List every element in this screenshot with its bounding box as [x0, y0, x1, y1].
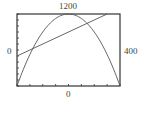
line-curve [17, 14, 107, 56]
graph-window [0, 0, 143, 120]
parabola-curve [17, 14, 120, 86]
